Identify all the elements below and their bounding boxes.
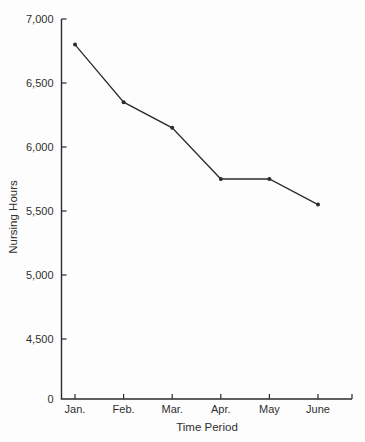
data-point: [170, 126, 174, 130]
y-tick-label: 4,500: [26, 333, 54, 345]
x-tick-label: Apr.: [211, 403, 231, 415]
y-tick-label: 6,500: [26, 77, 54, 89]
data-line: [75, 45, 318, 205]
x-axis-title: Time Period: [176, 421, 238, 433]
data-point: [122, 100, 126, 104]
data-point: [219, 177, 223, 181]
y-tick-label: 5,000: [26, 269, 54, 281]
data-point: [267, 177, 271, 181]
line-chart-figure: 7,0006,5006,0005,5005,0004,5000Jan.Feb.M…: [0, 0, 365, 442]
x-tick-label: Feb.: [113, 403, 135, 415]
chart-canvas: 7,0006,5006,0005,5005,0004,5000Jan.Feb.M…: [0, 0, 365, 442]
x-tick-label: May: [259, 403, 280, 415]
y-tick-label: 7,000: [26, 13, 54, 25]
y-tick-label: 5,500: [26, 205, 54, 217]
y-axis-title: Nursing Hours: [7, 180, 19, 254]
x-tick-label: June: [306, 403, 330, 415]
x-tick-label: Mar.: [161, 403, 182, 415]
y-tick-label: 0: [47, 393, 53, 405]
data-point: [316, 203, 320, 207]
data-point: [73, 43, 77, 47]
y-tick-label: 6,000: [26, 141, 54, 153]
x-tick-label: Jan.: [65, 403, 86, 415]
